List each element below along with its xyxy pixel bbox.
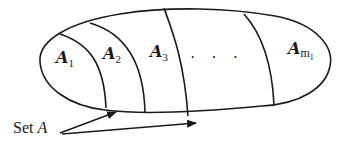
ellipsis: · · · — [190, 49, 244, 66]
set-a-label: Set A — [13, 119, 47, 136]
set-partition-diagram: A1 A2 A3 · · · Am1 Set A — [0, 0, 340, 144]
label-a1: A1 — [54, 48, 74, 69]
label-am1: Am1 — [286, 39, 314, 62]
set-outline-ellipse — [40, 9, 331, 113]
label-a2: A2 — [101, 44, 121, 65]
label-a3: A3 — [148, 42, 168, 63]
partition-boundary-4 — [244, 14, 274, 105]
partition-boundary-1 — [60, 34, 106, 108]
